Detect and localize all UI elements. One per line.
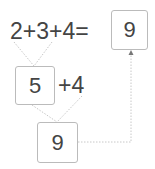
arrow-head-icon <box>129 50 134 55</box>
equation-result-box: 9 <box>111 10 148 50</box>
partial-sum-box: 5 <box>15 66 55 105</box>
remainder-term: +4 <box>58 74 84 97</box>
equation-expression: 2+3+4= <box>10 20 89 43</box>
final-result-box: 9 <box>37 122 78 163</box>
